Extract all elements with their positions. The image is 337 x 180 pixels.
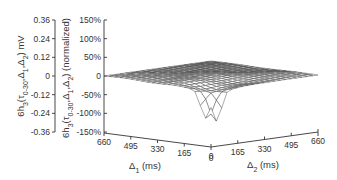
delta2-tick: 330 [257, 144, 271, 154]
delta2-tick: 165 [231, 147, 245, 157]
delta2-axis: 0165330495660 Δ2 (ms) [209, 129, 326, 173]
left-axis-tick: -0.36 [31, 127, 51, 137]
right-axis-tick: 100% [79, 34, 101, 44]
left-axis-tick: -0.24 [31, 108, 51, 118]
right-axis-tick: -50% [81, 90, 101, 100]
right-y-axis: 150%100%50%0-50%-100%-150% 6h3(τ0-30,Δ1,… [60, 15, 107, 138]
right-axis-tick: 0 [96, 71, 101, 81]
left-axis-tick: 0.36 [33, 15, 50, 25]
right-axis-tick: -150% [76, 127, 101, 137]
right-axis-tick: 150% [79, 15, 101, 25]
delta1-axis-label: Δ1 (ms) [129, 160, 161, 174]
delta1-axis: 6604953301650 Δ1 (ms) [97, 133, 214, 174]
left-axis-label: 6h3(τ0-30,Δ1,Δ2) mV [15, 35, 29, 117]
delta1-tick: 495 [124, 141, 138, 151]
delta1-tick: 660 [97, 137, 111, 147]
left-y-axis: 0.360.240.120-0.12-0.24-0.36 6h3(τ0-30,Δ… [15, 15, 55, 137]
left-axis-tick: -0.12 [31, 90, 51, 100]
delta1-tick: 330 [150, 144, 164, 154]
right-axis-tick: -100% [76, 108, 101, 118]
delta2-tick: 0 [209, 153, 214, 163]
right-axis-tick: 50% [84, 52, 101, 62]
kernel-surface-chart: 0.360.240.120-0.12-0.24-0.36 6h3(τ0-30,Δ… [0, 0, 337, 180]
right-axis-label: 6h3(τ0-30,Δ1,Δ2) (normalized) [60, 18, 74, 138]
delta2-tick: 495 [284, 140, 298, 150]
delta2-tick: 660 [311, 136, 325, 146]
delta2-axis-label: Δ2 (ms) [247, 159, 279, 173]
delta1-tick: 165 [177, 148, 191, 158]
left-axis-tick: 0 [45, 71, 50, 81]
surface-mesh [104, 61, 318, 121]
left-axis-tick: 0.12 [33, 52, 50, 62]
left-axis-tick: 0.24 [33, 34, 50, 44]
